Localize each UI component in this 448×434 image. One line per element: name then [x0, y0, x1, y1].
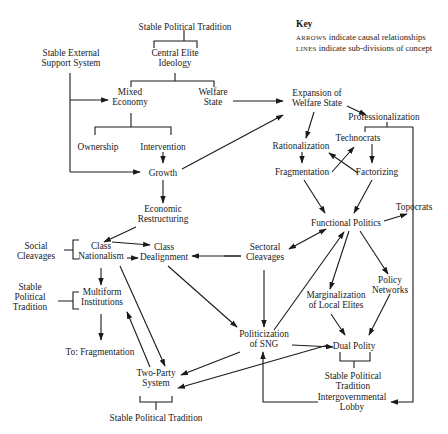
arrow-functional-politics-to-policy-networks: [360, 231, 388, 274]
node-label-line: Growth: [149, 168, 178, 178]
node-label-line: Dealignment: [140, 252, 188, 262]
node-label-line: To: Fragmentation: [66, 347, 135, 357]
node-label-line: Ownership: [78, 142, 119, 152]
subdivision-line-social-cleavages: [64, 240, 79, 259]
node-sectoral-cleavages: SectoralCleavages: [246, 242, 285, 262]
key-lines-term: LINES: [296, 45, 317, 52]
node-label-line: Institutions: [81, 297, 123, 307]
node-fragmentation: Fragmentation: [275, 167, 330, 177]
node-central-elite-ideology: Central EliteIdeology: [151, 48, 198, 68]
node-label-line: Ideology: [158, 58, 191, 68]
node-policy-networks: PolicyNetworks: [372, 275, 409, 295]
arrow-politicization-sng-to-two-party-system: [181, 352, 240, 375]
legend-key: Key ARROWS indicate causal relationships…: [296, 19, 433, 53]
node-marginalization-local-elites: Marginalizationof Local Elites: [306, 290, 366, 310]
key-arrows-term: ARROWS: [296, 34, 327, 41]
arrow-economic-restructuring-to-class-nationalism: [104, 227, 136, 242]
node-stable-political-tradition-left: StablePoliticalTradition: [13, 282, 48, 312]
node-label-line: Professionalization: [348, 112, 420, 122]
node-label-line: Stable: [18, 282, 41, 292]
node-label-line: Topocrats: [396, 202, 433, 212]
node-economic-restructuring: EconomicRestructuring: [138, 204, 189, 224]
node-label-line: Multiform: [83, 287, 123, 297]
node-label-line: Functional Politics: [311, 218, 381, 228]
arrow-growth-to-expansion-welfare-state: [182, 115, 283, 169]
node-label-line: Political: [15, 292, 46, 302]
node-label-line: System: [142, 378, 170, 388]
node-technocrats: Technocrats: [336, 133, 381, 143]
node-social-cleavages: SocialCleavages: [17, 241, 56, 261]
node-functional-politics: Functional Politics: [311, 218, 381, 228]
node-factorizing: Factorizing: [356, 167, 399, 177]
node-label-line: Welfare State: [292, 98, 342, 108]
node-label-line: State: [204, 97, 223, 107]
node-label-line: Class: [91, 241, 112, 251]
node-label-line: Factorizing: [356, 167, 399, 177]
node-label-line: Stable External: [42, 48, 99, 58]
node-label-line: Stable Political Tradition: [110, 413, 203, 423]
subdivision-line-dual-polity: [340, 352, 370, 368]
node-label-line: Intervention: [140, 142, 186, 152]
node-stable-political-tradition-right: Stable PoliticalTradition: [325, 371, 382, 391]
arrow-intergovernmental-lobby-to-politicization-sng: [263, 352, 318, 402]
key-arrows-desc: indicate causal relationships: [327, 32, 427, 42]
subdivision-line-two-party-system: [140, 396, 172, 410]
node-politicization-sng: Politicizationof SNG: [239, 329, 289, 349]
subdivision-line-stable-political-tradition-top: [154, 30, 197, 48]
node-label-line: Dual Polity: [333, 341, 376, 351]
node-label-line: Marginalization: [306, 290, 366, 300]
node-label-line: Rationalization: [273, 141, 330, 151]
arrow-dual-polity-to-two-party-system: [178, 345, 328, 388]
node-rationalization: Rationalization: [273, 141, 330, 151]
node-topocrats: Topocrats: [396, 202, 433, 212]
node-label-line: Economy: [112, 97, 148, 107]
arrow-class-nationalism-to-class-dealignment: [112, 242, 150, 245]
arrow-fragmentation-to-functional-politics: [304, 180, 325, 213]
node-label-line: Stable Political: [325, 371, 382, 381]
arrow-two-party-system-to-multiform-institutions: [127, 312, 150, 367]
node-label-line: Technocrats: [336, 133, 381, 143]
node-label-line: Stable Political Tradition: [139, 22, 232, 32]
node-label-line: Welfare: [198, 87, 227, 97]
node-label-line: Support System: [41, 58, 101, 68]
subdivision-line-mixed-economy: [95, 113, 171, 135]
node-label-line: Cleavages: [246, 252, 285, 262]
node-label-line: of SNG: [250, 339, 279, 349]
key-title: Key: [296, 19, 313, 29]
arrow-functional-politics-to-topocrats: [384, 214, 407, 221]
arrow-politicization-sng-to-functional-politics: [274, 232, 344, 330]
node-label-line: Policy: [378, 275, 402, 285]
node-label-line: Tradition: [336, 381, 371, 391]
node-intervention: Intervention: [140, 142, 186, 152]
node-label-line: Politicization: [239, 329, 289, 339]
key-lines-desc: indicate sub-divisions of concept: [317, 43, 433, 53]
node-label-line: Cleavages: [17, 251, 56, 261]
causal-diagram: Key ARROWS indicate causal relationships…: [0, 0, 448, 434]
node-welfare-state: WelfareState: [198, 87, 227, 107]
subdivision-line-central-elite-ideology: [131, 73, 214, 87]
node-class-nationalism: ClassNationalism: [78, 241, 124, 261]
node-expansion-welfare-state: Expansion ofWelfare State: [292, 88, 343, 108]
concept-nodes: Stable Political TraditionCentral EliteI…: [13, 22, 433, 423]
node-stable-external-support: Stable ExternalSupport System: [41, 48, 101, 68]
node-label-line: Expansion of: [292, 88, 342, 98]
diagram-canvas: Key ARROWS indicate causal relationships…: [0, 0, 448, 434]
node-stable-political-tradition-top: Stable Political Tradition: [139, 22, 232, 32]
node-label-line: Fragmentation: [275, 167, 330, 177]
arrow-expansion-welfare-state-to-rationalization: [306, 112, 314, 138]
node-label-line: Class: [154, 242, 175, 252]
arrow-functional-politics-to-marginalization-local-elites: [330, 231, 349, 289]
node-growth: Growth: [149, 168, 178, 178]
node-professionalization: Professionalization: [348, 112, 420, 122]
key-arrows-line: ARROWS indicate causal relationships: [296, 32, 426, 42]
node-stable-political-tradition-bottom: Stable Political Tradition: [110, 413, 203, 423]
subdivision-line-professionalization: [365, 122, 413, 132]
node-ownership: Ownership: [78, 142, 119, 152]
node-label-line: Sectoral: [250, 242, 281, 252]
node-label-line: of Local Elites: [309, 300, 364, 310]
node-label-line: Mixed: [118, 87, 143, 97]
arrow-factorizing-to-functional-politics: [354, 180, 372, 213]
arrow-policy-networks-to-dual-polity: [369, 294, 390, 335]
node-to-fragmentation: To: Fragmentation: [66, 347, 135, 357]
node-mixed-economy: MixedEconomy: [112, 87, 148, 107]
